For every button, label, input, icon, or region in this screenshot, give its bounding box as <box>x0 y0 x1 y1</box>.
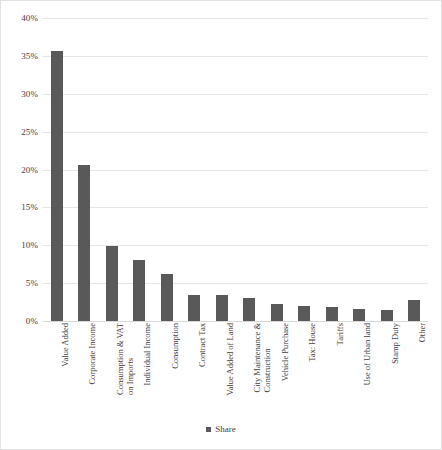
legend-label-share: Share <box>215 424 236 434</box>
y-axis-tick-labels: 0%5%10%15%20%25%30%35%40% <box>1 18 43 321</box>
plot-area <box>43 18 428 321</box>
y-tick-label-5: 5% <box>26 278 38 288</box>
bar <box>78 165 90 321</box>
bar <box>408 300 420 321</box>
bar-series-share <box>43 18 428 321</box>
bar <box>216 295 228 321</box>
bar <box>271 304 283 321</box>
x-label-line: Other <box>417 323 427 342</box>
x-label-line: Consumption <box>170 323 180 369</box>
bar-slot <box>263 18 291 321</box>
bar-slot <box>43 18 71 321</box>
y-tick-label-35: 35% <box>21 51 38 61</box>
bar <box>51 51 63 321</box>
y-tick-label-15: 15% <box>21 202 38 212</box>
x-axis-label-vehicle-purchase: Vehicle Purchase <box>281 323 291 381</box>
x-axis-category-labels: Value AddedCorporate IncomeConsumption &… <box>43 323 428 423</box>
bar-slot <box>236 18 264 321</box>
y-tick-label-20: 20% <box>21 165 38 175</box>
x-axis-label-tariffs: Tariffs <box>336 323 346 345</box>
x-label-line: Tax: House <box>307 323 317 362</box>
bar <box>326 307 338 321</box>
x-axis-label-consumption: Consumption <box>171 323 181 369</box>
x-label-line: Construction <box>263 323 273 392</box>
chart-legend: Share <box>1 424 441 434</box>
bar-slot <box>401 18 429 321</box>
x-axis-label-value-added-of-land: Value Added of Land <box>226 323 236 395</box>
bar-slot <box>346 18 374 321</box>
y-tick-label-0: 0% <box>26 316 38 326</box>
y-tick-label-30: 30% <box>21 89 38 99</box>
bar <box>381 310 393 321</box>
y-tick-label-40: 40% <box>21 13 38 23</box>
bar <box>188 295 200 321</box>
x-label-line: Consumption & VAT <box>115 323 125 395</box>
bar-slot <box>153 18 181 321</box>
x-label-line: Tariffs <box>335 323 345 345</box>
x-label-line: City Maintenance & <box>252 323 262 392</box>
x-axis-label-tax-house: Tax: House <box>308 323 318 362</box>
x-label-line: Use of Urban land <box>362 323 372 386</box>
chart-container: 0%5%10%15%20%25%30%35%40% Value AddedCor… <box>0 0 442 450</box>
x-axis-label-stamp-duty: Stamp Duty <box>391 323 401 364</box>
x-axis-label-corporate-income: Corporate Income <box>88 323 98 385</box>
x-label-line: on Imports <box>125 323 135 395</box>
x-label-line: Value Added <box>60 323 70 367</box>
x-label-line: Vehicle Purchase <box>280 323 290 381</box>
bar <box>133 260 145 321</box>
x-label-line: Contract Tax <box>197 323 207 367</box>
bar <box>161 274 173 321</box>
x-axis-label-consumption-vat-on-imports: Consumption & VATon Imports <box>116 323 135 395</box>
bar <box>353 309 365 321</box>
legend-marker-share <box>206 427 211 432</box>
bar-slot <box>373 18 401 321</box>
x-axis-label-use-of-urban-land: Use of Urban land <box>363 323 373 386</box>
bar-slot <box>181 18 209 321</box>
bar-slot <box>318 18 346 321</box>
y-tick-label-25: 25% <box>21 127 38 137</box>
x-axis-label-contract-tax: Contract Tax <box>198 323 208 367</box>
x-axis-label-value-added: Value Added <box>61 323 71 367</box>
bar-slot <box>98 18 126 321</box>
bar <box>243 298 255 321</box>
bar-slot <box>126 18 154 321</box>
x-label-line: Corporate Income <box>87 323 97 385</box>
x-label-line: Value Added of Land <box>225 323 235 395</box>
x-axis-label-city-maintenance-construction: City Maintenance &Construction <box>253 323 272 392</box>
bar-slot <box>291 18 319 321</box>
bar <box>298 306 310 321</box>
y-tick-label-10: 10% <box>21 240 38 250</box>
x-axis-label-other: Other <box>418 323 428 342</box>
x-axis-label-individual-income: Individual Income <box>143 323 153 386</box>
bar <box>106 246 118 321</box>
bar-slot <box>208 18 236 321</box>
x-label-line: Individual Income <box>142 323 152 386</box>
x-label-line: Stamp Duty <box>390 323 400 364</box>
bar-slot <box>71 18 99 321</box>
